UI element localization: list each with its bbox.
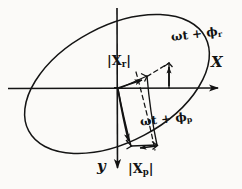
magnitude-xp-label: |Xp|	[128, 162, 154, 176]
magnitude-xr-open: |X	[107, 53, 122, 68]
magnitude-xr-label: |Xr|	[107, 54, 131, 68]
x-axis-label: X	[211, 55, 223, 70]
phase-p-subscript: p	[186, 115, 192, 125]
magnitude-xr-close: |	[126, 53, 131, 68]
magnitude-xp-close: |	[149, 161, 154, 176]
figure-canvas: X y |Xr| |Xp| ωt + ϕr ωt + ϕp	[0, 0, 242, 189]
angle-mark-upper-right	[164, 63, 173, 67]
vector-xp	[118, 90, 129, 141]
phase-r-subscript: r	[217, 30, 222, 39]
y-axis-label: y	[97, 159, 106, 174]
x-axis	[8, 88, 218, 89]
right-angle-marks	[126, 63, 173, 150]
vector-xr	[118, 80, 142, 88]
magnitude-xp-open: |X	[128, 161, 143, 176]
